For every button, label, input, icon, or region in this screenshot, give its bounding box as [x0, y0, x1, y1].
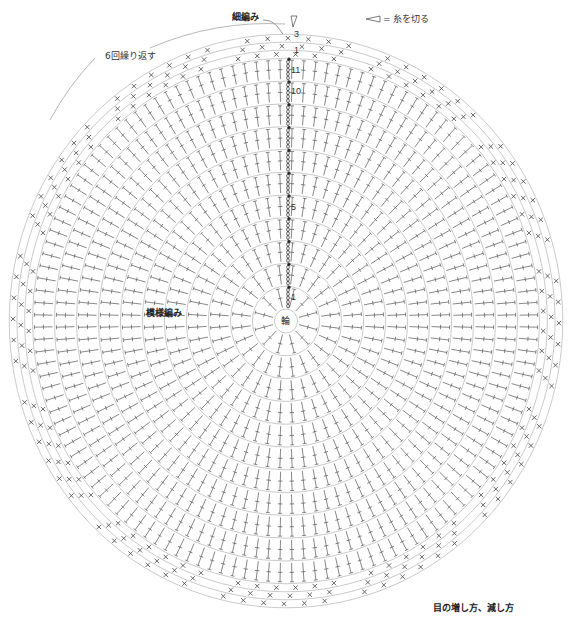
round-label-sc-3: 3 — [294, 29, 299, 39]
repeat-arc — [50, 58, 95, 120]
repeat-arc-top — [150, 24, 285, 48]
center-ring-label: 輪 — [281, 314, 290, 327]
label-pattern-stitch: 模様編み — [146, 306, 182, 319]
round-label-11: 11 — [291, 65, 300, 75]
label-repeat-six-times: 6回繰り返す — [105, 49, 156, 62]
round-label-1: 1 — [291, 292, 296, 302]
round-label-sc-1: 1 — [294, 45, 299, 55]
legend-text: = 糸を切る — [383, 14, 429, 24]
legend-cut-yarn: = 糸を切る — [365, 12, 429, 25]
label-increase-decrease: 目の増し方、減し方 — [433, 601, 514, 614]
label-single-crochet: 細編み — [232, 10, 259, 23]
leader-line-single-crochet — [263, 20, 283, 34]
round-label-10: 10 — [291, 86, 301, 96]
round-label-5: 5 — [291, 202, 296, 212]
cut-yarn-icon — [291, 16, 297, 27]
starting-chain-column — [287, 58, 291, 308]
crochet-chart — [0, 0, 569, 620]
